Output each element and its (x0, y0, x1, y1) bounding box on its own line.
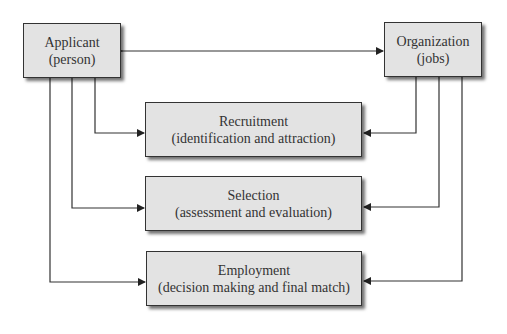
organization-title: Organization (397, 33, 470, 50)
employment-subtitle: (decision making and final match) (158, 279, 350, 296)
applicant-selection-arrow (72, 78, 144, 208)
applicant-title: Applicant (44, 34, 99, 51)
selection-node: Selection (assessment and evaluation) (145, 176, 362, 231)
organization-selection-arrow (364, 77, 439, 207)
organization-employment-arrow (364, 77, 462, 281)
employment-title: Employment (218, 262, 290, 279)
recruitment-subtitle: (identification and attraction) (171, 130, 335, 147)
organization-node: Organization (jobs) (384, 22, 482, 77)
organization-subtitle: (jobs) (417, 50, 450, 67)
diagram-canvas: Applicant (person) Organization (jobs) R… (0, 0, 507, 334)
selection-title: Selection (227, 187, 279, 204)
selection-subtitle: (assessment and evaluation) (175, 204, 332, 221)
recruitment-node: Recruitment (identification and attracti… (145, 102, 362, 157)
organization-recruitment-arrow (364, 77, 416, 133)
applicant-recruitment-arrow (95, 78, 144, 133)
applicant-node: Applicant (person) (23, 23, 121, 78)
applicant-employment-arrow (50, 78, 145, 282)
applicant-subtitle: (person) (49, 51, 96, 68)
recruitment-title: Recruitment (219, 113, 288, 130)
employment-node: Employment (decision making and final ma… (146, 251, 362, 306)
